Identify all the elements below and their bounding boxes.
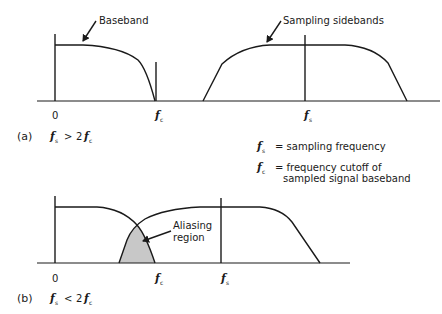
baseband-curve-a bbox=[55, 45, 155, 101]
cond-b-k: 2 bbox=[76, 293, 82, 304]
aliasing-label-1: Aliasing bbox=[173, 220, 212, 231]
legend-fc-text-2: sampled signal baseband bbox=[283, 173, 411, 184]
sampling-diagram: Baseband Sampling sidebands 0 f c f s (a… bbox=[0, 0, 442, 314]
legend-fc-sub: c bbox=[262, 168, 265, 175]
panel-b: Aliasing region 0 f c f s (b) f s < 2 f … bbox=[17, 196, 350, 306]
tick-fs-sub-b: s bbox=[226, 279, 229, 286]
tick-fs-sub-a: s bbox=[309, 116, 312, 123]
legend-fc-text-1: = frequency cutoff of bbox=[275, 162, 382, 173]
legend-fs-sub: s bbox=[262, 147, 265, 154]
panel-b-tag: (b) bbox=[17, 292, 33, 305]
cond-b-s2: c bbox=[89, 299, 92, 306]
cond-b-s1: s bbox=[55, 299, 58, 306]
tick-zero-a: 0 bbox=[52, 110, 58, 121]
cond-b-op: < bbox=[64, 293, 72, 304]
cond-a-op: > bbox=[64, 131, 72, 142]
cond-a-s1: s bbox=[55, 137, 58, 144]
sidebands-label: Sampling sidebands bbox=[283, 15, 384, 26]
cond-a-s2: c bbox=[89, 137, 92, 144]
panel-a-tag: (a) bbox=[17, 130, 32, 143]
panel-a: Baseband Sampling sidebands 0 f c f s (a… bbox=[17, 15, 440, 144]
legend: f s = sampling frequency f c = frequency… bbox=[256, 140, 411, 184]
legend-fs-text: = sampling frequency bbox=[275, 141, 386, 152]
baseband-label: Baseband bbox=[99, 15, 149, 26]
aliasing-region bbox=[119, 225, 155, 263]
aliasing-arrow bbox=[143, 231, 171, 241]
tick-zero-b: 0 bbox=[52, 273, 58, 284]
tick-fc-sub-b: c bbox=[160, 279, 163, 286]
aliasing-label-2: region bbox=[173, 232, 205, 243]
sidebands-arrow bbox=[267, 21, 281, 42]
tick-fc-sub-a: c bbox=[160, 116, 163, 123]
cond-a-k: 2 bbox=[76, 131, 82, 142]
baseband-arrow bbox=[83, 21, 96, 41]
